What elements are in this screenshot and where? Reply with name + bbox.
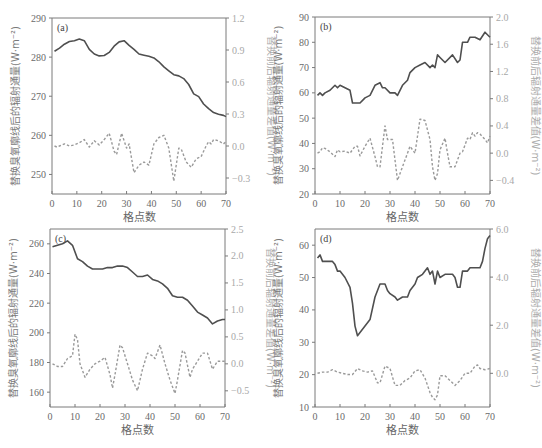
x-tick-label: 10 [335,411,345,422]
y-axis-label-left: 替换臭氧廓线后的辐射通量(W·m⁻²) [9,26,21,186]
x-tick-label: 50 [170,411,180,422]
y-tick-label-right: 0.5 [231,331,244,342]
y-tick-label-left: 270 [31,91,46,102]
y-tick-label-left: 50 [299,113,309,124]
x-tick-label: 40 [145,411,155,422]
x-tick-label: 30 [385,411,395,422]
x-tick-label: 70 [485,411,495,422]
y-axis-label-right: 替换前后辐射通量差值(W·m⁻²) [530,248,542,388]
y-axis-label-left: 替换臭氧廓线后的辐射通量(W·m⁻²) [272,25,284,185]
y-tick-label-left: 90 [299,12,309,23]
y-tick-label-left: 80 [299,37,309,48]
y-tick-label-left: 60 [299,87,309,98]
flux-line [53,241,226,324]
y-tick-label-right: 2.0 [231,250,244,261]
x-tick-label: 60 [460,411,470,422]
y-tick-label-left: 260 [29,238,44,249]
y-tick-label-right: 0.4 [496,120,509,131]
x-tick-label: 20 [360,198,370,209]
panel-label: (b) [320,21,332,33]
y-tick-label-right: 0.8 [496,93,509,104]
x-tick-label: 70 [220,411,230,422]
x-axis-label: 格点数 [386,423,419,437]
y-tick-label-right: 2.0 [496,12,509,23]
y-tick-label-right: 1.6 [496,39,509,50]
y-tick-label-left: 30 [299,337,309,348]
y-tick-label-left: 70 [299,62,309,73]
y-tick-label-right: 1.2 [496,66,509,77]
x-tick-label: 50 [435,198,445,209]
x-tick-label: 30 [122,198,132,209]
flux-line [55,39,227,117]
x-tick-label: 60 [195,411,205,422]
y-tick-label-right: 0.6 [232,77,245,88]
y-tick-label-right: 0.0 [496,368,509,379]
y-tick-label-right: −0.5 [231,385,249,396]
panel-label: (a) [57,22,68,34]
y-tick-label-right: 0.0 [232,141,245,152]
y-tick-label-left: 40 [299,304,309,315]
x-tick-label: 20 [97,198,107,209]
x-tick-label: 70 [221,198,231,209]
x-tick-label: 10 [335,198,345,209]
x-tick-label: 40 [410,198,420,209]
panel-b: 0102030405060702030405060708090−0.40.00.… [272,12,542,225]
y-tick-label-left: 220 [29,298,44,309]
y-tick-label-right: 0.9 [232,45,245,56]
panel-c: 010203040506070160180200220240260−0.50.0… [7,224,277,438]
panel-label: (d) [320,233,332,245]
x-tick-label: 50 [435,411,445,422]
y-axis-label-right: 替换前后辐射通量差值(W·m⁻²) [530,36,542,176]
y-tick-label-right: 0.0 [231,358,244,369]
x-axis-label: 格点数 [121,423,154,437]
x-tick-label: 10 [72,198,82,209]
y-tick-label-right: 2.5 [231,224,244,235]
x-axis-label: 格点数 [386,210,419,224]
x-tick-label: 60 [460,198,470,209]
y-tick-label-left: 160 [29,387,44,398]
panel-d: 0102030405060701020304050600.02.04.06.0格… [272,224,542,438]
y-axis-label-left: 替换臭氧廓线后的辐射通量(W·m⁻²) [7,238,19,398]
x-tick-label: 0 [313,411,318,422]
y-tick-label-right: −0.4 [496,175,514,186]
y-tick-label-right: −0.3 [232,173,250,184]
flux-line [318,32,491,103]
panel-a: 010203040506070250260270280290−0.30.00.3… [9,13,278,225]
figure-panels: 010203040506070250260270280290−0.30.00.3… [0,0,542,448]
y-tick-label-left: 40 [299,138,309,149]
y-tick-label-right: 2.0 [496,320,509,331]
y-tick-label-right: 0.3 [232,109,245,120]
y-tick-label-right: 6.0 [496,224,509,235]
x-tick-label: 50 [171,198,181,209]
y-tick-label-right: 1.5 [231,277,244,288]
x-tick-label: 60 [196,198,206,209]
difference-line [318,365,491,400]
y-tick-label-right: 4.0 [496,272,509,283]
y-tick-label-left: 20 [299,189,309,200]
y-tick-label-left: 60 [299,240,309,251]
y-tick-label-left: 180 [29,357,44,368]
y-tick-label-left: 280 [31,52,46,63]
y-tick-label-left: 240 [29,268,44,279]
x-tick-label: 0 [48,411,53,422]
y-axis-label-left: 替换臭氧廓线后的辐射通量(W·m⁻²) [272,238,284,398]
x-tick-label: 20 [360,411,370,422]
y-tick-label-right: 1.2 [232,13,245,24]
x-tick-label: 10 [70,411,80,422]
y-tick-label-left: 200 [29,327,44,338]
y-tick-label-right: 1.0 [231,304,244,315]
x-tick-label: 0 [313,198,318,209]
y-tick-label-right: 0.0 [496,148,509,159]
x-tick-label: 70 [485,198,495,209]
y-tick-label-left: 20 [299,369,309,380]
y-tick-label-left: 30 [299,163,309,174]
flux-line [318,236,491,336]
y-tick-label-left: 250 [31,169,46,180]
x-tick-label: 0 [50,198,55,209]
x-tick-label: 30 [120,411,130,422]
y-tick-label-left: 260 [31,130,46,141]
difference-line [55,133,227,181]
x-tick-label: 40 [146,198,156,209]
x-tick-label: 40 [410,411,420,422]
y-tick-label-left: 290 [31,13,46,24]
